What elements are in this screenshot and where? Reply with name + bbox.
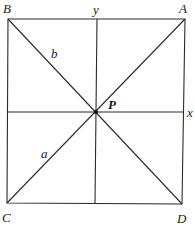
- label-a-vertex: A: [178, 1, 187, 16]
- label-segment-b: b: [51, 46, 58, 61]
- label-x-axis: x: [186, 105, 193, 120]
- label-c-vertex: C: [2, 210, 11, 225]
- label-d-vertex: D: [176, 211, 187, 226]
- diagram-stage: B A C D P y x b a: [0, 0, 195, 226]
- label-p-center: P: [108, 97, 117, 112]
- point-p-marker: [94, 110, 98, 114]
- geometry-diagram: B A C D P y x b a: [0, 0, 195, 226]
- label-segment-a: a: [41, 146, 48, 161]
- label-b-vertex: B: [3, 1, 11, 16]
- label-y-axis: y: [91, 2, 99, 17]
